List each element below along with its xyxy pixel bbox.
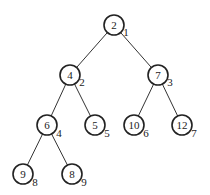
tree-node: 98: [13, 164, 38, 188]
tree-node: 42: [60, 65, 85, 88]
tree-node: 73: [148, 65, 173, 88]
node-index: 3: [167, 76, 173, 88]
tree-edge: [27, 134, 42, 165]
tree-edge: [77, 33, 108, 68]
node-value: 5: [92, 119, 98, 131]
tree-node: 89: [62, 164, 87, 188]
node-value: 10: [129, 119, 141, 131]
node-index: 9: [81, 176, 87, 188]
tree-node: 55: [85, 115, 110, 139]
tree-node: 21: [104, 15, 129, 38]
tree-edge: [162, 84, 177, 116]
node-value: 2: [111, 19, 117, 31]
tree-edge: [51, 84, 66, 116]
tree-node: 127: [172, 115, 197, 139]
node-value: 9: [20, 168, 26, 180]
tree-edge: [138, 84, 153, 116]
binary-tree-diagram: 21427364551061279889: [0, 0, 210, 195]
tree-edge: [74, 84, 90, 116]
node-index: 4: [56, 127, 62, 139]
node-value: 6: [44, 119, 50, 131]
node-index: 5: [104, 127, 110, 139]
node-index: 7: [191, 127, 197, 139]
node-index: 6: [143, 127, 149, 139]
node-value: 12: [177, 119, 188, 131]
node-index: 8: [32, 176, 38, 188]
node-index: 1: [123, 26, 129, 38]
node-index: 2: [79, 76, 85, 88]
node-value: 7: [155, 69, 161, 81]
node-value: 4: [67, 69, 73, 81]
tree-node: 106: [124, 115, 149, 139]
tree-node: 64: [37, 115, 62, 139]
node-value: 8: [69, 168, 75, 180]
